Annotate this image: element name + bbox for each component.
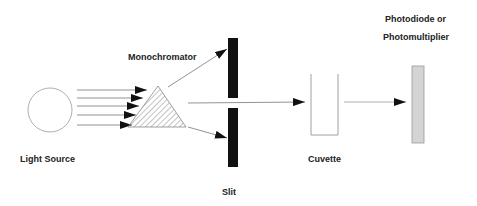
detector-label-line2: Photomultiplier [383, 32, 449, 42]
light-source-label: Light Source [20, 154, 75, 164]
light-source-circle [28, 88, 72, 132]
slit-lower-bar [228, 108, 238, 167]
prism [128, 86, 186, 127]
slit-upper-bar [228, 38, 238, 98]
detector-label-line1: Photodiode or [385, 14, 446, 24]
diagram-canvas [0, 0, 477, 206]
cuvette-label: Cuvette [308, 154, 341, 164]
slit-label: Slit [222, 187, 236, 197]
cuvette [311, 74, 338, 135]
detector [412, 66, 424, 143]
monochromator-label: Monochromator [128, 52, 197, 62]
